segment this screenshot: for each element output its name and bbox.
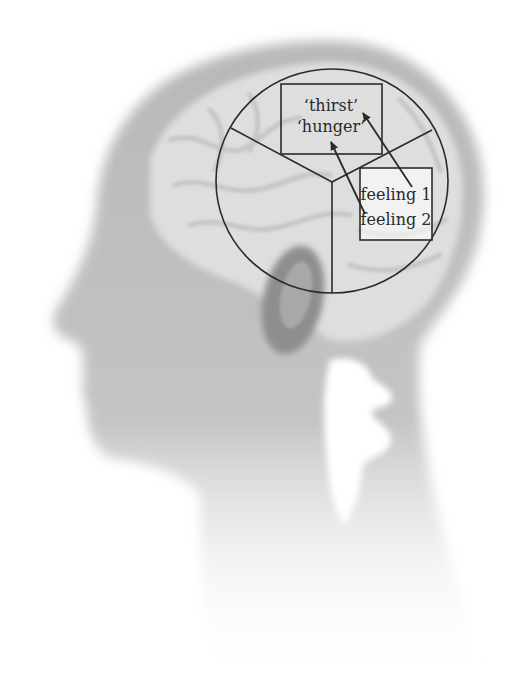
- label-thirst: ‘thirst’: [304, 96, 358, 115]
- head-brain-diagram: ‘thirst’ ‘hunger’ feeling 1 feeling 2: [0, 0, 521, 676]
- feeling-box: feeling 1 feeling 2: [360, 168, 432, 240]
- label-feeling-1: feeling 1: [361, 185, 432, 204]
- label-feeling-2: feeling 2: [361, 210, 432, 229]
- label-hunger: ‘hunger’: [297, 117, 365, 136]
